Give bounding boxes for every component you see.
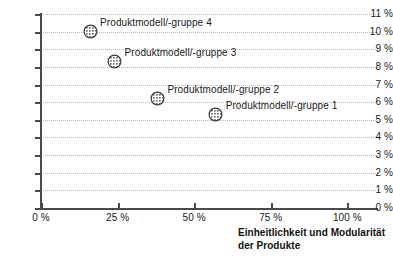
gridline	[41, 14, 378, 15]
y-tick-label: 9 %	[359, 44, 393, 54]
y-tick-mark	[35, 67, 42, 69]
gridline	[41, 137, 378, 138]
gridline	[41, 190, 378, 191]
y-tick-label: 3 %	[359, 150, 393, 160]
x-tick-mark	[347, 203, 349, 210]
x-tick-mark	[271, 203, 273, 210]
x-tick-mark	[41, 203, 43, 210]
x-axis-title-line-2: der Produkte	[238, 240, 390, 253]
plot-area: Produktmodell/-gruppe 4Produktmodell/-gr…	[41, 14, 378, 208]
y-axis-line	[40, 13, 42, 209]
gridline	[41, 155, 378, 156]
y-tick-mark	[35, 85, 42, 87]
data-point[interactable]	[83, 24, 98, 39]
x-tick-mark	[194, 203, 196, 210]
x-tick-label: 25 %	[106, 213, 129, 223]
x-tick-label: 75 %	[259, 213, 282, 223]
y-tick-label: 6 %	[359, 97, 393, 107]
data-point[interactable]	[107, 54, 122, 69]
data-point[interactable]	[150, 91, 165, 106]
y-tick-mark	[35, 173, 42, 175]
scatter-chart: Produktmodell/-gruppe 4Produktmodell/-gr…	[0, 0, 393, 258]
y-tick-mark	[35, 32, 42, 34]
data-point-marker	[107, 54, 122, 69]
y-tick-label: 7 %	[359, 80, 393, 90]
data-point-label: Produktmodell/-gruppe 3	[125, 47, 237, 58]
y-tick-label: 8 %	[359, 62, 393, 72]
y-tick-mark	[35, 14, 42, 16]
y-tick-label: 2 %	[359, 168, 393, 178]
data-point-label: Produktmodell/-gruppe 1	[226, 100, 338, 111]
x-tick-label: 0 %	[32, 213, 50, 223]
x-axis-title: Einheitlichkeit und Modularität der Prod…	[238, 227, 390, 252]
y-tick-label: 0 %	[359, 203, 393, 213]
y-tick-label: 4 %	[359, 132, 393, 142]
x-axis-title-line-1: Einheitlichkeit und Modularität	[238, 227, 390, 240]
y-tick-mark	[35, 137, 42, 139]
y-tick-label: 11 %	[359, 9, 393, 19]
data-point-marker	[83, 24, 98, 39]
y-tick-mark	[35, 102, 42, 104]
data-point-label: Produktmodell/-gruppe 2	[167, 84, 279, 95]
y-tick-mark	[35, 120, 42, 122]
data-point-marker	[150, 91, 165, 106]
y-tick-label: 1 %	[359, 185, 393, 195]
y-tick-mark	[35, 49, 42, 51]
x-axis-line	[41, 208, 378, 210]
y-tick-mark	[35, 190, 42, 192]
x-tick-label: 50 %	[183, 213, 206, 223]
gridline	[41, 67, 378, 68]
y-tick-label: 5 %	[359, 115, 393, 125]
data-point-label: Produktmodell/-gruppe 4	[100, 17, 212, 28]
x-tick-label: 100 %	[333, 213, 362, 223]
data-point[interactable]	[208, 107, 223, 122]
y-tick-mark	[35, 155, 42, 157]
x-tick-mark	[118, 203, 120, 210]
data-point-marker	[208, 107, 223, 122]
gridline	[41, 173, 378, 174]
y-tick-label: 10 %	[359, 27, 393, 37]
